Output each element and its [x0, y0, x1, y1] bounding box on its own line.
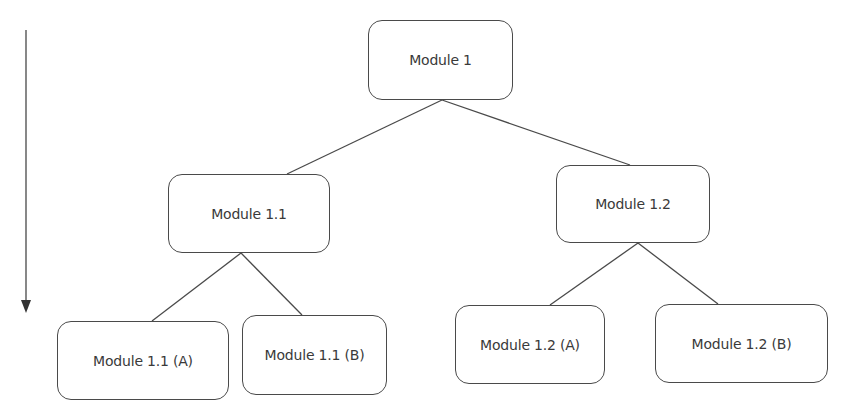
- hierarchy-diagram: Module 1 Module 1.1 Module 1.2 Module 1.…: [0, 0, 845, 411]
- down-arrow-icon: [21, 30, 31, 313]
- node-module-1-2: Module 1.2: [556, 165, 710, 243]
- node-label: Module 1: [409, 52, 472, 68]
- node-label: Module 1.1: [211, 206, 287, 222]
- node-label: Module 1.2 (B): [692, 336, 792, 352]
- edge-m12-m12a: [550, 243, 638, 305]
- node-module-1-2-b: Module 1.2 (B): [655, 304, 828, 383]
- node-label: Module 1.1 (A): [93, 353, 193, 369]
- node-module-1-1-a: Module 1.1 (A): [57, 321, 229, 400]
- node-label: Module 1.2 (A): [480, 337, 580, 353]
- node-module-1-1-b: Module 1.1 (B): [242, 315, 387, 395]
- edge-m11-m11b: [241, 253, 302, 315]
- edge-m1-m12: [442, 100, 630, 165]
- node-module-1-2-a: Module 1.2 (A): [455, 305, 605, 384]
- edge-m1-m11: [287, 100, 442, 174]
- edge-m11-m11a: [152, 253, 241, 321]
- edge-m12-m12b: [638, 243, 718, 304]
- node-label: Module 1.1 (B): [265, 347, 365, 363]
- node-label: Module 1.2: [595, 196, 671, 212]
- node-module-1: Module 1: [368, 20, 513, 100]
- node-module-1-1: Module 1.1: [168, 174, 330, 253]
